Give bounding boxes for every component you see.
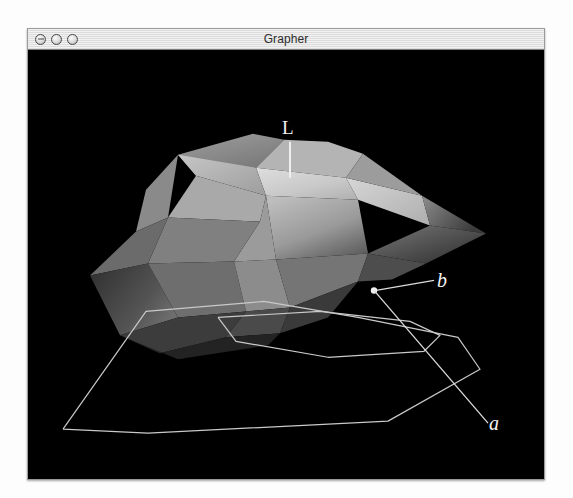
- surface-plot-graphic: L b a: [28, 50, 544, 479]
- annotation-label-b: b: [437, 269, 447, 291]
- window-titlebar[interactable]: Grapher: [28, 29, 544, 50]
- window-controls: [35, 34, 78, 45]
- minimize-button-icon[interactable]: [51, 34, 62, 45]
- surface-facet-center-front: [266, 196, 368, 260]
- annotation-label-L: L: [282, 117, 294, 138]
- window-title: Grapher: [28, 29, 544, 49]
- annotation-label-a: a: [489, 412, 499, 434]
- screenshot-root: Grapher: [0, 0, 573, 498]
- grapher-window: Grapher: [27, 28, 545, 480]
- plot-canvas[interactable]: L b a: [28, 50, 544, 479]
- close-button-icon[interactable]: [35, 34, 46, 45]
- zoom-button-icon[interactable]: [67, 34, 78, 45]
